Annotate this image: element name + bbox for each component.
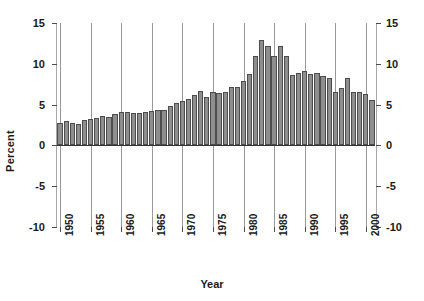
x-tick-label-1990: 1990 <box>309 214 320 236</box>
bar <box>70 123 75 145</box>
bar <box>229 87 234 145</box>
y-tick-label-left: -10 <box>15 222 45 233</box>
bar <box>265 46 270 146</box>
y-tick-left <box>52 64 57 65</box>
y-tick-label-right: 0 <box>386 140 416 151</box>
bar <box>369 100 374 146</box>
bar <box>125 112 130 145</box>
bars-container <box>57 23 375 227</box>
x-tick-label-1970: 1970 <box>186 214 197 236</box>
bar <box>76 124 81 145</box>
x-tick-label-1995: 1995 <box>339 214 350 236</box>
bar <box>223 92 228 146</box>
y-tick-right <box>376 145 381 146</box>
bar <box>131 113 136 146</box>
x-axis-title-text: Year <box>200 278 223 290</box>
bar <box>314 73 319 146</box>
y-axis-right-spine <box>376 23 377 227</box>
y-tick-label-left: 0 <box>15 140 45 151</box>
x-tick-label-2000: 2000 <box>370 214 381 236</box>
y-tick-label-left: 10 <box>15 59 45 70</box>
x-tick <box>213 227 214 232</box>
bar <box>339 88 344 145</box>
bar <box>174 103 179 145</box>
y-tick-label-right: 5 <box>386 100 416 111</box>
bar <box>278 46 283 146</box>
x-axis-title: Year <box>0 278 424 290</box>
x-tick <box>152 227 153 232</box>
y-tick-label-left: 5 <box>15 100 45 111</box>
bar <box>327 78 332 145</box>
y-tick-right <box>376 64 381 65</box>
bar <box>271 56 276 146</box>
bar <box>204 97 209 145</box>
bar <box>216 93 221 145</box>
bar <box>112 114 117 146</box>
y-tick-left <box>52 227 57 228</box>
bar <box>82 120 87 145</box>
x-tick <box>60 227 61 232</box>
bar <box>351 92 356 145</box>
chart-figure: Percent 151050-5-10 151050-5-10 19501955… <box>0 0 424 301</box>
x-tick-label-1975: 1975 <box>217 214 228 236</box>
bar <box>149 111 154 145</box>
bar <box>180 101 185 145</box>
bar <box>106 117 111 146</box>
bar <box>345 78 350 145</box>
bar <box>57 123 62 146</box>
y-tick-label-right: -5 <box>386 181 416 192</box>
y-tick-label-right: -10 <box>386 222 416 233</box>
y-tick-label-left: 15 <box>15 18 45 29</box>
y-tick-right <box>376 105 381 106</box>
x-tick <box>121 227 122 232</box>
plot-area <box>57 23 375 227</box>
bar <box>198 91 203 146</box>
bar <box>161 110 166 146</box>
y-tick-left <box>52 186 57 187</box>
bar <box>210 92 215 146</box>
bar <box>168 106 173 145</box>
x-tick <box>335 227 336 232</box>
bar <box>357 92 362 146</box>
x-tick-label-1965: 1965 <box>156 214 167 236</box>
x-tick-label-1950: 1950 <box>64 214 75 236</box>
bar <box>143 112 148 145</box>
bar <box>284 56 289 146</box>
y-tick-right <box>376 23 381 24</box>
y-tick-label-right: 15 <box>386 18 416 29</box>
bar <box>333 92 338 145</box>
bar <box>253 56 258 146</box>
bar <box>186 99 191 146</box>
bar <box>241 81 246 145</box>
x-tick-label-1960: 1960 <box>125 214 136 236</box>
bar <box>308 74 313 146</box>
bar <box>64 121 69 145</box>
y-tick-label-left: -5 <box>15 181 45 192</box>
bar <box>119 112 124 145</box>
y-tick-label-right: 10 <box>386 59 416 70</box>
x-tick-label-1955: 1955 <box>95 214 106 236</box>
bar <box>137 113 142 146</box>
bar <box>88 119 93 145</box>
bar <box>259 40 264 145</box>
bar <box>155 110 160 145</box>
x-tick-label-1985: 1985 <box>278 214 289 236</box>
y-tick-left <box>52 145 57 146</box>
y-tick-right <box>376 186 381 187</box>
y-tick-left <box>52 105 57 106</box>
bar <box>290 75 295 145</box>
bar <box>247 74 252 146</box>
bar <box>363 94 368 145</box>
x-tick <box>182 227 183 232</box>
x-tick <box>91 227 92 232</box>
x-tick-label-1980: 1980 <box>248 214 259 236</box>
x-tick <box>244 227 245 232</box>
bar <box>94 118 99 146</box>
x-tick <box>274 227 275 232</box>
x-tick <box>366 227 367 232</box>
bar <box>100 116 105 145</box>
x-tick <box>305 227 306 232</box>
bar <box>235 87 240 145</box>
bar <box>302 71 307 145</box>
bar <box>296 73 301 146</box>
